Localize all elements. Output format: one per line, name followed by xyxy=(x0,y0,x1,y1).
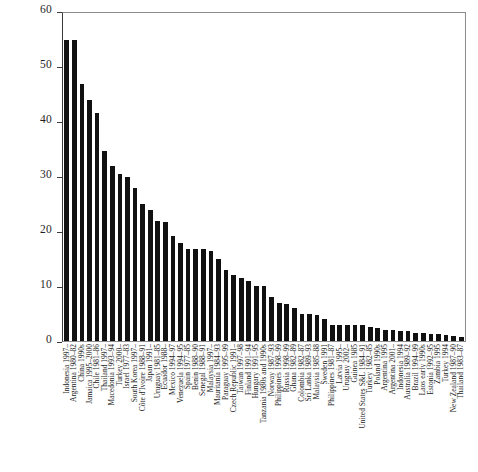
bar xyxy=(118,174,123,341)
bar xyxy=(345,325,350,341)
bar xyxy=(201,249,206,341)
bar xyxy=(178,243,183,341)
bar xyxy=(406,331,411,341)
bar-slot xyxy=(110,13,115,341)
bar xyxy=(337,325,342,341)
bar xyxy=(391,330,396,341)
bar-slot xyxy=(391,13,396,341)
bar-series xyxy=(63,13,465,341)
bar-slot xyxy=(322,13,327,341)
bar-slot xyxy=(239,13,244,341)
bar xyxy=(444,335,449,341)
x-axis-label-slot: Thailand 1983–87 xyxy=(457,344,465,472)
y-axis-tick-label: 40 xyxy=(40,114,52,126)
bar xyxy=(254,286,259,341)
bar-slot xyxy=(413,13,418,341)
bar xyxy=(436,334,441,341)
bar xyxy=(262,286,267,341)
bar xyxy=(148,210,153,341)
bar xyxy=(277,303,282,341)
bar-slot xyxy=(375,13,380,341)
bar-slot xyxy=(201,13,206,341)
bar xyxy=(360,325,365,341)
bar-slot xyxy=(337,13,342,341)
bar-slot xyxy=(193,13,198,341)
bar xyxy=(307,314,312,341)
bar xyxy=(368,327,373,341)
bar-slot xyxy=(178,13,183,341)
bar xyxy=(125,177,130,341)
bar xyxy=(300,314,305,341)
bar xyxy=(315,315,320,341)
bar-slot xyxy=(269,13,274,341)
bar xyxy=(413,333,418,341)
bar xyxy=(155,221,160,341)
bar-slot xyxy=(360,13,365,341)
bar-slot xyxy=(216,13,221,341)
bar xyxy=(231,275,236,341)
bar-slot xyxy=(353,13,358,341)
bar-slot xyxy=(330,13,335,341)
bar-slot xyxy=(292,13,297,341)
bar xyxy=(246,281,251,341)
bar-slot xyxy=(307,13,312,341)
bar-chart-figure: 0102030405060 Indonesia 1997–Argentina 1… xyxy=(0,0,478,472)
x-axis-label: Thailand 1983–87 xyxy=(457,344,464,399)
bar xyxy=(193,249,198,341)
bar-slot xyxy=(429,13,434,341)
bar-slot xyxy=(246,13,251,341)
bar xyxy=(209,251,214,341)
bar-slot xyxy=(436,13,441,341)
bar xyxy=(186,249,191,341)
bar-slot xyxy=(345,13,350,341)
x-axis-labels: Indonesia 1997–Argentina 1980–82China 19… xyxy=(63,344,465,472)
bar-slot xyxy=(459,13,464,341)
bar xyxy=(224,270,229,341)
bar-slot xyxy=(72,13,77,341)
bar-slot xyxy=(383,13,388,341)
bar-slot xyxy=(224,13,229,341)
y-axis-tick-label: 20 xyxy=(40,224,52,236)
bar-slot xyxy=(163,13,168,341)
bar xyxy=(72,40,77,341)
bar xyxy=(87,100,92,341)
bar-slot xyxy=(406,13,411,341)
bar-slot xyxy=(254,13,259,341)
y-axis-tick-label: 50 xyxy=(40,59,52,71)
bar xyxy=(398,331,403,341)
bar xyxy=(80,84,85,341)
bar-slot xyxy=(80,13,85,341)
y-axis-tick-label: 60 xyxy=(40,4,52,16)
bar-slot xyxy=(231,13,236,341)
bar-slot xyxy=(262,13,267,341)
bar-slot xyxy=(64,13,69,341)
bar xyxy=(95,113,100,342)
bar xyxy=(110,166,115,341)
bar-slot xyxy=(148,13,153,341)
bar-slot xyxy=(133,13,138,341)
bar-slot xyxy=(209,13,214,341)
bar-slot xyxy=(398,13,403,341)
bar xyxy=(451,336,456,341)
y-axis: 0102030405060 xyxy=(0,12,62,342)
bar xyxy=(140,204,145,341)
bar xyxy=(459,337,464,341)
bar-slot xyxy=(87,13,92,341)
bar xyxy=(216,259,221,341)
bar-slot xyxy=(277,13,282,341)
bar-slot xyxy=(421,13,426,341)
y-axis-tick-label: 10 xyxy=(40,279,52,291)
bar xyxy=(322,319,327,341)
y-axis-tick-label: 30 xyxy=(40,169,52,181)
bar-slot xyxy=(300,13,305,341)
bar xyxy=(64,40,69,341)
bar xyxy=(292,308,297,341)
bar-slot xyxy=(444,13,449,341)
bar xyxy=(102,151,107,341)
bar xyxy=(269,297,274,341)
y-axis-tick-label: 0 xyxy=(46,334,52,346)
bar xyxy=(375,328,380,341)
bar-slot xyxy=(95,13,100,341)
bar xyxy=(163,222,168,341)
bar xyxy=(429,334,434,341)
